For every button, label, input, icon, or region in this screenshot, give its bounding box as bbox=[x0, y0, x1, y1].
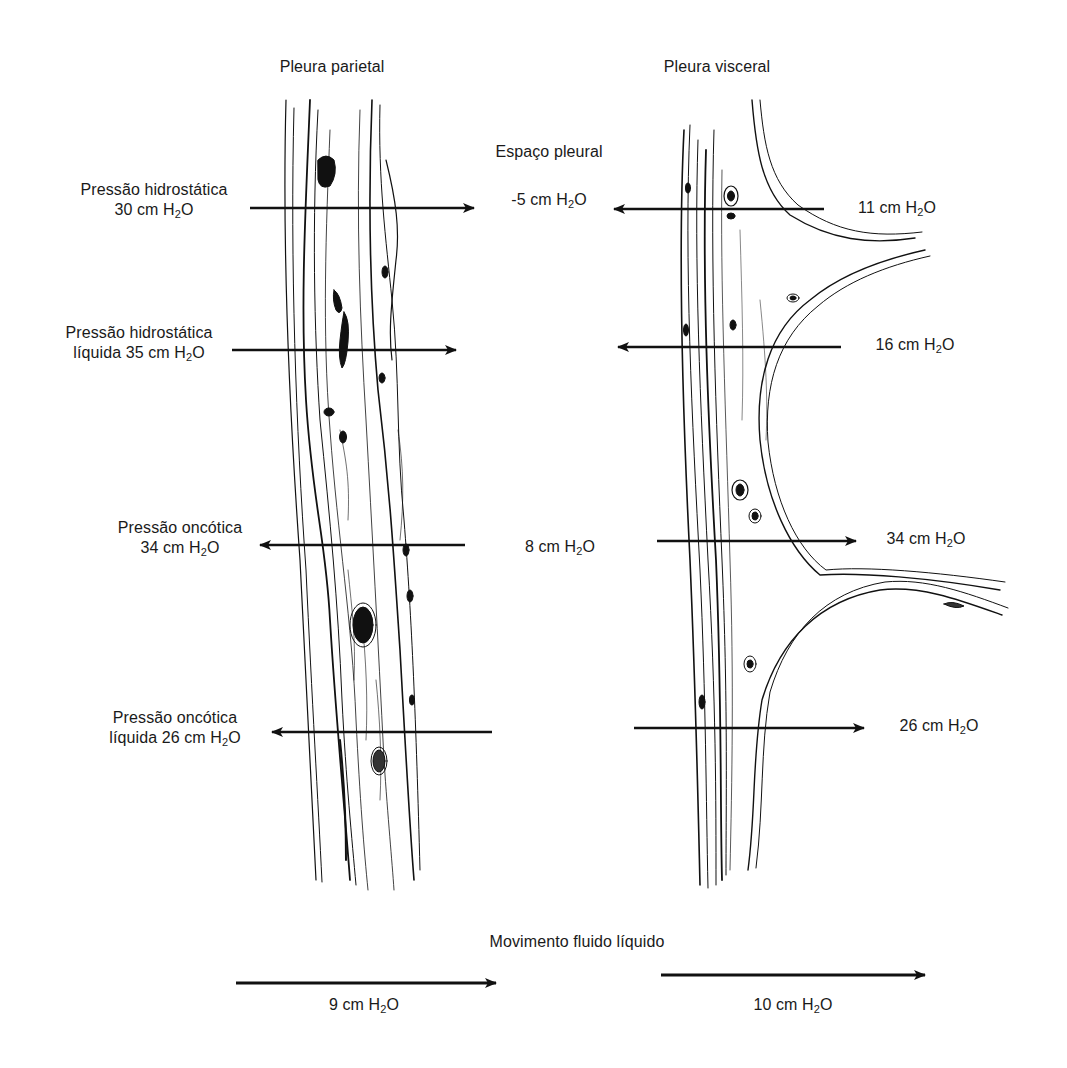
label-space-hydrostatic: -5 cm H2O bbox=[511, 190, 586, 210]
label-parietal-hydrostatic: Pressão hidrostática 30 cm H2O bbox=[81, 180, 228, 220]
label-space-oncotic: 8 cm H2O bbox=[525, 537, 595, 557]
label-visceral-net-hydrostatic: 16 cm H2O bbox=[875, 335, 954, 355]
label-net-movement-parietal: 9 cm H2O bbox=[329, 995, 399, 1015]
header-visceral-pleura: Pleura visceral bbox=[664, 57, 770, 77]
header-parietal-pleura: Pleura parietal bbox=[280, 57, 385, 77]
label-visceral-oncotic: 34 cm H2O bbox=[886, 529, 965, 549]
parietal-pleura-tissue bbox=[285, 100, 420, 890]
label-parietal-net-oncotic: Pressão oncótica líquida 26 cm H2O bbox=[109, 708, 240, 748]
label-visceral-hydrostatic: 11 cm H2O bbox=[858, 198, 936, 218]
label-parietal-net-hydrostatic: Pressão hidrostática líquida 35 cm H2O bbox=[66, 323, 213, 363]
label-net-movement-visceral: 10 cm H2O bbox=[753, 995, 832, 1015]
label-parietal-oncotic: Pressão oncótica 34 cm H2O bbox=[118, 518, 242, 558]
visceral-pleura-tissue bbox=[681, 100, 1008, 888]
pleural-pressure-diagram: Pleura parietal Pleura visceral Espaço p… bbox=[0, 0, 1067, 1068]
label-visceral-net-oncotic: 26 cm H2O bbox=[899, 716, 978, 736]
net-movement-title: Movimento fluido líquido bbox=[490, 932, 665, 952]
header-pleural-space: Espaço pleural bbox=[495, 142, 602, 162]
